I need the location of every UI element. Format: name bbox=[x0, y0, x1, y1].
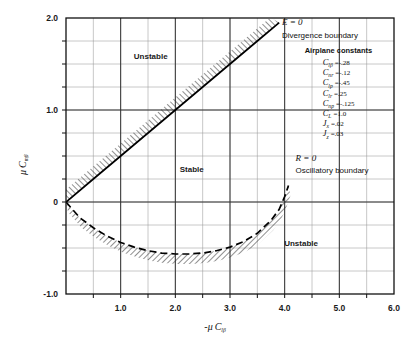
constants-title: Airplane constants bbox=[305, 46, 373, 55]
region-label: Unstable bbox=[134, 52, 168, 61]
boundary-name-label: Oscillatory boundary bbox=[296, 166, 369, 175]
chart-figure: 1.02.03.04.05.06.02.01.00-1.0 UnstableSt… bbox=[0, 0, 410, 342]
x-tick-label: 1.0 bbox=[115, 303, 127, 313]
x-tick-label: 3.0 bbox=[224, 303, 236, 313]
x-tick-label: 4.0 bbox=[279, 303, 291, 313]
x-tick-label: 2.0 bbox=[169, 303, 181, 313]
x-tick-label: 6.0 bbox=[388, 303, 400, 313]
equation-label: E = 0 bbox=[281, 17, 303, 27]
y-tick-label: 1.0 bbox=[46, 105, 58, 115]
boundary-name-label: Divergence boundary bbox=[282, 31, 358, 40]
y-tick-label: 0 bbox=[53, 197, 58, 207]
equation-label: R = 0 bbox=[295, 153, 317, 163]
stability-boundary-chart: 1.02.03.04.05.06.02.01.00-1.0 UnstableSt… bbox=[0, 0, 410, 342]
x-tick-label: 5.0 bbox=[333, 303, 345, 313]
y-tick-label: 2.0 bbox=[46, 13, 58, 23]
y-tick-label: -1.0 bbox=[43, 289, 58, 299]
region-label: Unstable bbox=[284, 239, 318, 248]
constant-entry: Jz=.03 bbox=[323, 128, 344, 139]
region-label: Stable bbox=[180, 165, 205, 174]
